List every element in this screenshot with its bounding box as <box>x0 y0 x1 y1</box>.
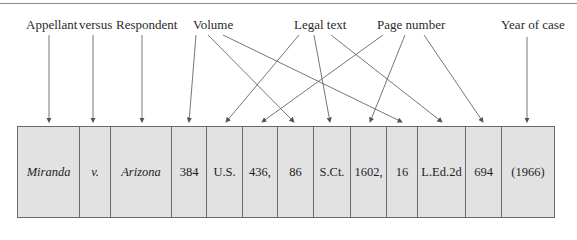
cell-year: (1966) <box>502 127 554 217</box>
arrow-legal-led2d <box>331 35 442 122</box>
arrow-page-694 <box>424 35 483 122</box>
cell-respondent: Arizona <box>111 127 172 217</box>
cell-versus: v. <box>80 127 111 217</box>
cell-page-sct: 1602, <box>351 127 387 217</box>
cell-volume-us: 384 <box>172 127 207 217</box>
arrow-legal-us <box>226 35 299 122</box>
cell-page-led: 694 <box>466 127 502 217</box>
cell-legal-sct: S.Ct. <box>314 127 351 217</box>
cell-page-us: 436, <box>243 127 278 217</box>
arrow-volume-384 <box>189 35 196 122</box>
citation-row: Miranda v. Arizona 384 U.S. 436, 86 S.Ct… <box>17 126 555 218</box>
arrow-page-1602 <box>370 35 405 122</box>
cell-legal-led: L.Ed.2d <box>418 127 466 217</box>
cell-volume-sct: 86 <box>278 127 314 217</box>
arrow-volume-86 <box>208 35 294 122</box>
cell-appellant: Miranda <box>18 127 80 217</box>
cell-volume-led: 16 <box>387 127 418 217</box>
arrow-page-436 <box>262 35 383 122</box>
cell-legal-us: U.S. <box>207 127 243 217</box>
